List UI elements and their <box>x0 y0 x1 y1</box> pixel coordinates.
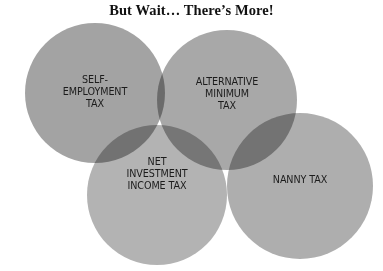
circle-net-investment-income-tax: NET INVESTMENT INCOME TAX <box>87 125 227 265</box>
label-alternative-minimum-tax: ALTERNATIVE MINIMUM TAX <box>196 76 258 112</box>
circle-nanny-tax: NANNY TAX <box>227 113 373 259</box>
label-nanny-tax: NANNY TAX <box>273 174 327 186</box>
diagram-title: But Wait… There’s More! <box>0 2 383 19</box>
label-net-investment-income-tax: NET INVESTMENT INCOME TAX <box>127 156 188 192</box>
label-self-employment-tax: SELF- EMPLOYMENT TAX <box>63 74 127 110</box>
